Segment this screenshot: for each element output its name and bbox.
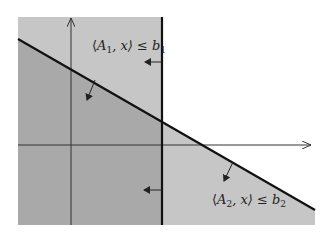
constraint-2-label: ⟨A2, x⟩ ≤ b2 bbox=[212, 192, 286, 209]
half-space-diagram: ⟨A1, x⟩ ≤ b1 ⟨A2, x⟩ ≤ b2 bbox=[0, 0, 333, 235]
constraint-1-label: ⟨A1, x⟩ ≤ b1 bbox=[92, 38, 166, 55]
